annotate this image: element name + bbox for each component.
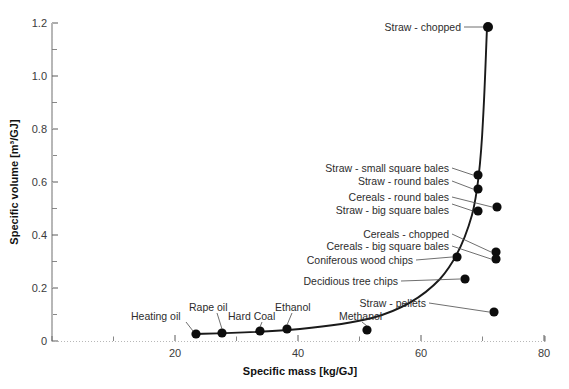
point-label-straw-chopped: Straw - chopped [385, 21, 462, 33]
point-label-cereals-chopped: Cereals - chopped [363, 228, 449, 240]
chart-container: 0 0.2 0.4 0.6 0.8 1.0 1.2 20 40 60 80 Sp… [0, 0, 569, 389]
x-tick-label-40: 40 [292, 347, 304, 359]
point-label-decidious-tree-chips: Decidious tree chips [303, 275, 398, 287]
point-label-rape-oil: Rape oil [189, 301, 228, 313]
data-point-rape-oil[interactable] [217, 328, 226, 337]
x-axis-title: Specific mass [kg/GJ] [243, 365, 358, 377]
data-point-decidious-tree-chips[interactable] [460, 274, 469, 283]
data-point-straw-chopped[interactable] [483, 22, 493, 32]
y-axis-title: Specific volume [m³/GJ] [8, 119, 20, 245]
point-label-ethanol: Ethanol [275, 301, 311, 313]
data-point-coniferous-wood-chips[interactable] [452, 252, 461, 261]
y-tick-label-0: 0 [41, 335, 47, 347]
y-tick-label-0.8: 0.8 [32, 123, 47, 135]
point-label-cereals-big-square-bales: Cereals - big square bales [326, 240, 449, 252]
y-tick-label-1.2: 1.2 [32, 17, 47, 29]
point-label-straw-small-square-bales: Straw - small square bales [325, 162, 449, 174]
data-point-ethanol[interactable] [282, 324, 291, 333]
y-tick-label-1.0: 1.0 [32, 70, 47, 82]
x-tick-label-60: 60 [415, 347, 427, 359]
point-label-methanol: Methanol [339, 310, 382, 322]
data-point-straw-big-square-bales[interactable] [473, 206, 482, 215]
data-point-straw-pellets[interactable] [489, 307, 498, 316]
data-point-methanol[interactable] [362, 325, 371, 334]
data-point-straw-small-square-bales[interactable] [473, 170, 482, 179]
data-point-straw-round-bales[interactable] [473, 184, 482, 193]
y-tick-label-0.6: 0.6 [32, 176, 47, 188]
y-tick-label-0.4: 0.4 [32, 229, 47, 241]
point-label-coniferous-wood-chips: Coniferous wood chips [307, 254, 413, 266]
point-label-straw-round-bales: Straw - round bales [358, 175, 449, 187]
point-label-cereals-round-bales: Cereals - round bales [349, 191, 449, 203]
y-tick-label-0.2: 0.2 [32, 282, 47, 294]
data-point-cereals-big-square-bales[interactable] [491, 254, 500, 263]
data-point-hard-coal[interactable] [255, 326, 264, 335]
x-tick-label-20: 20 [169, 347, 181, 359]
x-tick-label-80: 80 [538, 347, 550, 359]
point-label-hard-coal: Hard Coal [228, 310, 275, 322]
point-label-straw-pellets: Straw - pellets [359, 297, 426, 309]
point-label-straw-big-square-bales: Straw - big square bales [336, 204, 449, 216]
point-label-heating-oil: Heating oil [131, 310, 181, 322]
data-point-cereals-round-bales[interactable] [492, 202, 501, 211]
